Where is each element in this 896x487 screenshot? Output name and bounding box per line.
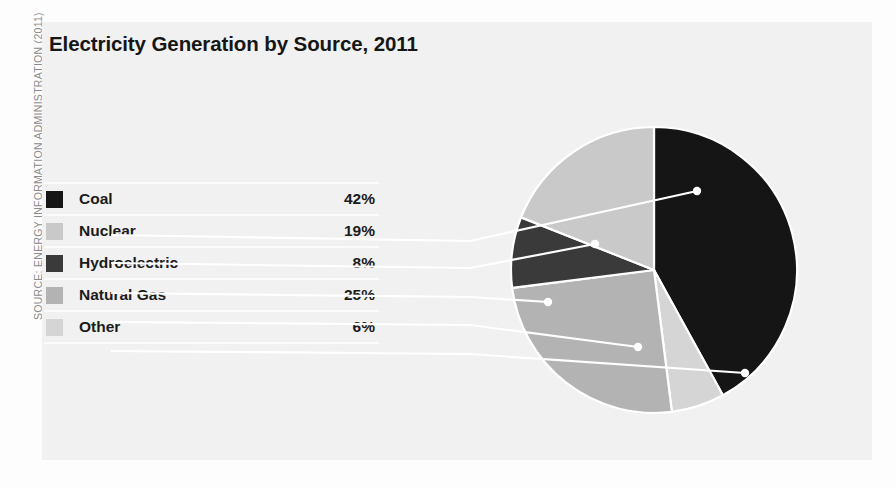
- figure-root: SOURCE: ENERGY INFORMATION ADMINISTRATIO…: [0, 0, 896, 487]
- legend-row[interactable]: Natural Gas25%: [44, 278, 379, 310]
- color-swatch-icon: [46, 191, 63, 208]
- legend-label: Nuclear: [79, 222, 344, 240]
- legend-value: 8%: [353, 254, 379, 272]
- legend-label: Other: [79, 318, 353, 336]
- legend-row[interactable]: Hydroelectric8%: [44, 246, 379, 278]
- legend-value: 42%: [344, 190, 379, 208]
- legend-row[interactable]: Other6%: [44, 310, 379, 344]
- legend-label: Coal: [79, 190, 344, 208]
- color-swatch-icon: [46, 319, 63, 336]
- color-swatch-icon: [46, 223, 63, 240]
- legend-value: 6%: [353, 318, 379, 336]
- chart-legend: Coal42%Nuclear19%Hydroelectric8%Natural …: [44, 182, 379, 344]
- color-swatch-icon: [46, 255, 63, 272]
- legend-row[interactable]: Nuclear19%: [44, 214, 379, 246]
- legend-label: Natural Gas: [79, 286, 344, 304]
- legend-row[interactable]: Coal42%: [44, 182, 379, 214]
- page-title: Electricity Generation by Source, 2011: [49, 32, 418, 56]
- legend-value: 25%: [344, 286, 379, 304]
- color-swatch-icon: [46, 287, 63, 304]
- legend-label: Hydroelectric: [79, 254, 353, 272]
- legend-value: 19%: [344, 222, 379, 240]
- source-credit-container: SOURCE: ENERGY INFORMATION ADMINISTRATIO…: [2, 0, 42, 487]
